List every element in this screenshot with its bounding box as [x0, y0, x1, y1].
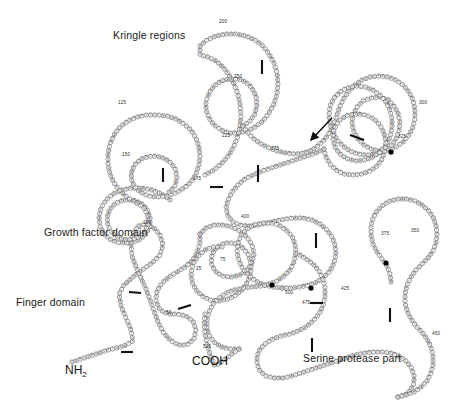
residue-letter: H: [231, 275, 233, 279]
residue-circle: C: [130, 251, 134, 255]
residue-letter: V: [359, 102, 361, 106]
residue-letter: K: [120, 345, 122, 349]
residue-circle: H: [109, 140, 113, 144]
residue-letter: Q: [343, 155, 345, 159]
residue-letter: C: [149, 154, 151, 158]
residue-letter: Y: [247, 175, 249, 179]
residue-letter: V: [237, 93, 239, 97]
protein-diagram-figure: QNRCSEGWCFTGKAYRGTHSLTESGASCLPWNSMILIGKV…: [0, 0, 466, 402]
residue-letter: Q: [161, 241, 163, 245]
residue-circle: M: [238, 119, 242, 123]
residue-letter: G: [239, 102, 241, 106]
residue-letter: S: [132, 275, 134, 279]
residue-circle: Y: [400, 394, 404, 398]
residue-letter: S: [352, 125, 354, 129]
residue-circle: G: [198, 52, 202, 56]
residue-letter: Y: [171, 339, 173, 343]
residue-circle: Q: [216, 245, 220, 249]
residue-circle: M: [358, 112, 362, 116]
residue-circle: L: [409, 365, 413, 369]
residue-circle: G: [381, 153, 385, 157]
residue-letter: C: [245, 122, 247, 126]
residue-letter: A: [239, 273, 241, 277]
residue-letter: N: [278, 376, 280, 380]
residue-letter: E: [215, 270, 217, 274]
residue-circle: P: [140, 114, 144, 118]
residue-circle: R: [204, 226, 208, 230]
residue-letter: K: [373, 75, 375, 79]
residue-letter: H: [330, 124, 332, 128]
residue-letter: P: [185, 184, 187, 188]
residue-letter: E: [256, 356, 258, 360]
residue-letter: P: [274, 99, 276, 103]
residue-circle: W: [412, 378, 416, 382]
residue-circle: T: [194, 328, 198, 332]
residue-circle: K: [237, 97, 241, 101]
residue-letter: H: [356, 84, 358, 88]
residue-circle: D: [412, 104, 416, 108]
residue-letter: Q: [303, 370, 305, 374]
residue-letter: P: [250, 269, 252, 273]
residue-circle: E: [360, 78, 364, 82]
residue-letter: S: [409, 315, 411, 319]
residue-circle: L: [363, 85, 367, 89]
residue-letter: R: [355, 112, 357, 116]
residue-letter: S: [334, 146, 336, 150]
residue-circle: L: [211, 245, 215, 249]
residue-letter: G: [350, 113, 352, 117]
residue-letter: N: [417, 201, 419, 205]
residue-letter: P: [371, 96, 373, 100]
residue-circle: N: [140, 156, 144, 160]
residue-circle: Y: [412, 121, 416, 125]
residue-letter: P: [306, 258, 308, 262]
residue-letter: R: [213, 266, 215, 270]
residue-circle: P: [106, 161, 110, 165]
residue-circle: I: [229, 241, 233, 245]
residue-letter: P: [328, 270, 330, 274]
residue-circle: L: [198, 154, 202, 158]
residue-circle: T: [235, 249, 239, 253]
residue-circle: C: [275, 86, 279, 90]
residue-letter: R: [132, 256, 134, 260]
residue-letter: A: [268, 282, 270, 286]
residue-circle: T: [351, 173, 355, 177]
residue-letter: Y: [159, 253, 161, 257]
residue-letter: P: [332, 133, 334, 137]
residue-letter: Q: [107, 157, 109, 161]
residue-letter: C: [237, 245, 239, 249]
residue-letter: V: [422, 332, 424, 336]
residue-circle: D: [413, 113, 417, 117]
residue-circle: H: [408, 198, 412, 202]
residue-letter: C: [252, 257, 254, 261]
residue-letter: R: [295, 158, 297, 162]
residue-circle: A: [106, 153, 110, 157]
residue-circle: K: [242, 33, 246, 37]
c-terminus-text: COOH: [192, 354, 228, 368]
residue-letter: E: [358, 81, 360, 85]
residue-letter: Q: [286, 271, 288, 275]
residue-letter: Q: [369, 75, 371, 79]
residue-letter: A: [221, 64, 223, 68]
residue-circle: R: [310, 152, 314, 156]
residue-letter: D: [337, 149, 339, 153]
residue-circle: N: [298, 156, 302, 160]
residue-letter: G: [158, 286, 160, 290]
residue-letter: D: [111, 136, 113, 140]
residue-letter: D: [376, 164, 378, 168]
residue-letter: S: [315, 366, 317, 370]
residue-circle: N: [107, 148, 111, 152]
residue-letter: H: [316, 266, 318, 270]
residue-letter: P: [211, 254, 213, 258]
residue-letter: E: [110, 206, 112, 210]
residue-letter: Y: [247, 227, 249, 231]
glycosylation-site-0: [388, 149, 393, 154]
residue-letter: R: [435, 224, 437, 228]
residue-circle: M: [387, 107, 391, 111]
residue-letter: Q: [408, 362, 410, 366]
residue-circle: N: [159, 237, 163, 241]
residue-letter: C: [146, 187, 148, 191]
residue-circle: Q: [350, 85, 354, 89]
residue-circle: P: [273, 98, 277, 102]
residue-letter: R: [244, 177, 246, 181]
residue-circle: Q: [181, 313, 185, 317]
